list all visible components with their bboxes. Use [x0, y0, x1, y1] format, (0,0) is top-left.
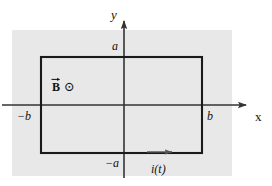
y-tick-label-negative-a: −a — [105, 157, 119, 169]
figure-container: y x a −a −b b B ⊙ i(t) — [0, 0, 272, 186]
current-label: i(t) — [151, 163, 166, 175]
out-of-page-dot-icon: ⊙ — [64, 80, 75, 93]
x-tick-label-negative-b: −b — [17, 110, 31, 122]
y-tick-label-a: a — [112, 40, 118, 52]
magnetic-field-label-group: B ⊙ — [52, 80, 75, 93]
magnetic-field-vector-symbol: B — [52, 81, 60, 93]
vector-arrow-icon — [51, 76, 61, 81]
magnetic-field-letter: B — [52, 80, 60, 94]
gray-panel — [12, 30, 232, 176]
x-axis-label: x — [255, 110, 262, 123]
figure-canvas — [0, 0, 272, 186]
y-axis-label: y — [111, 8, 117, 21]
x-tick-label-b: b — [207, 110, 213, 122]
